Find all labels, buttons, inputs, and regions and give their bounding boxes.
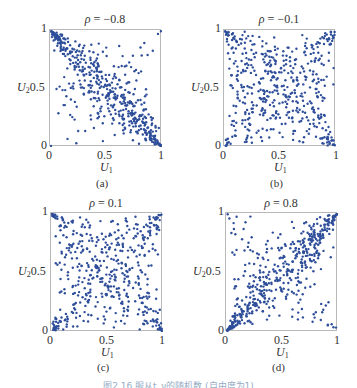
title-value: = 0.1: [98, 196, 123, 210]
x-tick-1: 1: [159, 333, 165, 348]
panel-label-b: (b): [270, 177, 283, 189]
x-tick-1: 1: [158, 148, 164, 163]
ylabel-var: U: [191, 80, 200, 94]
xlabel-var: U: [274, 160, 283, 174]
scatter-points-c: [51, 213, 163, 332]
ylabel-var: U: [18, 264, 27, 278]
panel-label-c: (c): [97, 361, 109, 373]
x-axis-label: U1: [276, 345, 289, 360]
scatter-points-a: [50, 30, 162, 147]
xlabel-sub: 1: [110, 351, 114, 360]
panel-label-a: (a): [96, 177, 108, 189]
rho-symbol: ρ: [89, 196, 95, 210]
y-axis-label: U20.5: [193, 264, 221, 279]
panel-a-title: ρ = −0.8: [49, 12, 161, 27]
scatter-points-b: [224, 30, 336, 147]
xlabel-var: U: [100, 160, 109, 174]
ylabel-var: U: [17, 80, 26, 94]
y-tick-1: 1: [41, 21, 47, 36]
panel-d-title: ρ = 0.8: [225, 196, 337, 211]
x-axis-label: U1: [101, 345, 114, 360]
x-tick-0: 0: [220, 148, 226, 163]
y-tick-05: 0.5: [30, 80, 45, 94]
x-tick-0: 0: [46, 148, 52, 163]
x-tick-0: 0: [47, 333, 53, 348]
plot-area-b: [223, 29, 335, 146]
y-axis-label: U20.5: [18, 264, 46, 279]
y-tick-05: 0.5: [31, 264, 46, 278]
plot-area-c: [50, 212, 162, 331]
xlabel-var: U: [276, 345, 285, 359]
y-tick-1: 1: [215, 21, 221, 36]
plot-area-a: [49, 29, 161, 146]
xlabel-sub: 1: [109, 166, 113, 175]
y-tick-05: 0.5: [206, 264, 221, 278]
y-tick-1: 1: [218, 204, 224, 219]
x-tick-1: 1: [333, 148, 339, 163]
plot-area-d: [225, 212, 337, 331]
xlabel-sub: 1: [283, 166, 287, 175]
y-tick-1: 1: [42, 204, 48, 219]
ylabel-var: U: [193, 264, 202, 278]
title-value: = −0.8: [94, 12, 126, 26]
x-tick-1: 1: [334, 333, 340, 348]
rho-symbol: ρ: [85, 12, 91, 26]
x-axis-label: U1: [100, 160, 113, 175]
xlabel-var: U: [101, 345, 110, 359]
xlabel-sub: 1: [285, 351, 289, 360]
figure-caption: 图2.16 服从t_ν的随机数 (自由度为1): [0, 379, 357, 388]
rho-symbol: ρ: [259, 12, 265, 26]
x-axis-label: U1: [274, 160, 287, 175]
panel-c-title: ρ = 0.1: [50, 196, 162, 211]
scatter-points-d: [226, 213, 338, 332]
panel-b-title: ρ = −0.1: [223, 12, 335, 27]
title-value: = −0.1: [268, 12, 300, 26]
y-axis-label: U20.5: [17, 80, 45, 95]
y-tick-05: 0.5: [204, 80, 219, 94]
x-tick-0: 0: [222, 333, 228, 348]
panel-label-d: (d): [272, 361, 285, 373]
title-value: = 0.8: [273, 196, 298, 210]
y-axis-label: U20.5: [191, 80, 219, 95]
rho-symbol: ρ: [264, 196, 270, 210]
